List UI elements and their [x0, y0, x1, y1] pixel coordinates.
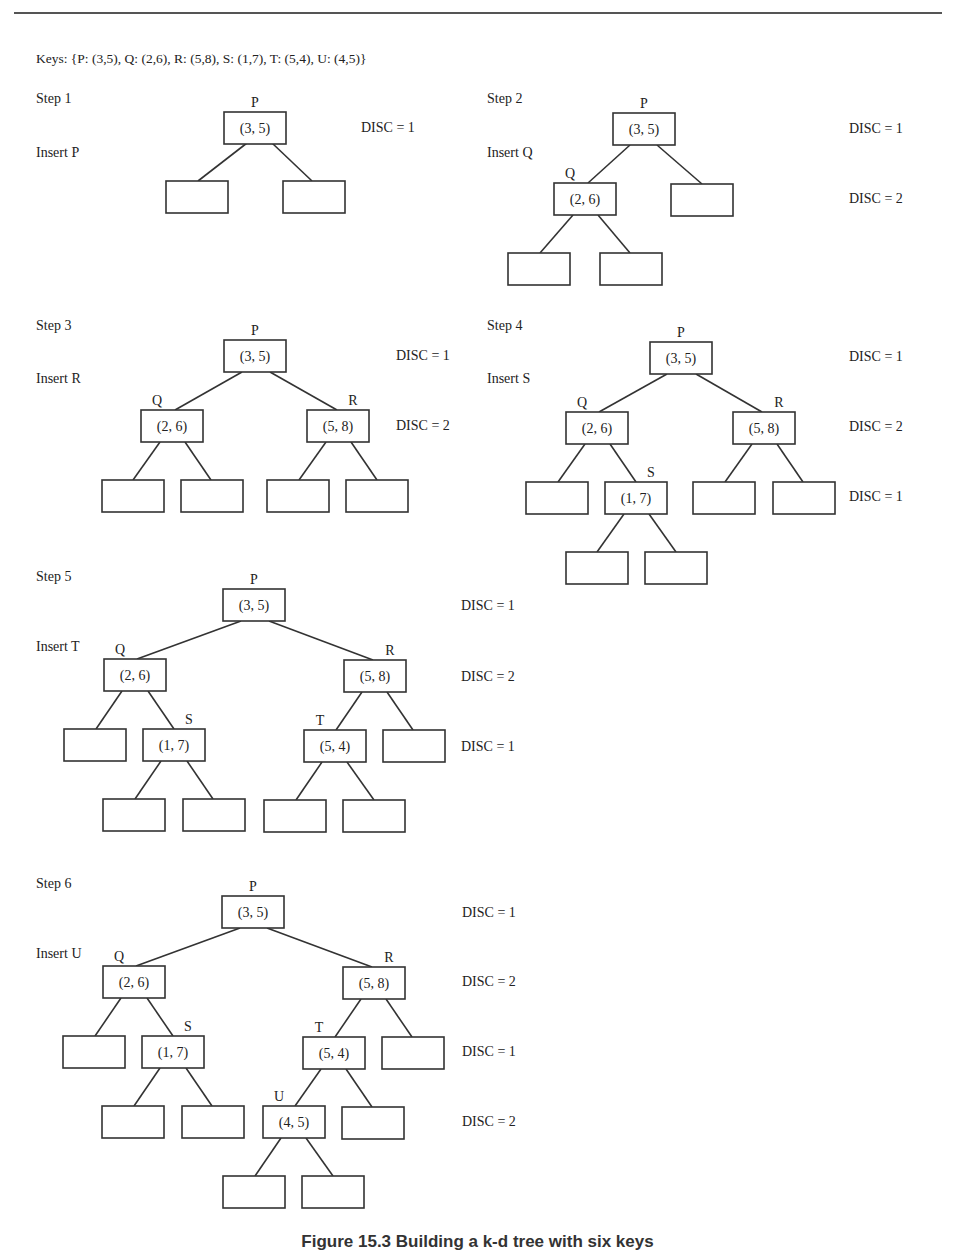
tree-edge	[270, 372, 337, 410]
empty-child-box	[64, 729, 126, 761]
empty-child-box	[645, 552, 707, 584]
tree-edge	[133, 442, 160, 480]
empty-child-box	[183, 799, 245, 831]
disc-label: DISC = 1	[849, 489, 903, 504]
disc-label: DISC = 2	[462, 974, 516, 989]
disc-label: DISC = 1	[361, 120, 415, 135]
node-value-s: (1, 7)	[621, 491, 652, 507]
node-label-p: P	[640, 96, 648, 111]
node-label-q: Q	[115, 642, 125, 657]
node-value-q: (2, 6)	[157, 419, 188, 435]
step-action: Insert U	[36, 946, 82, 961]
node-label-r: R	[348, 393, 358, 408]
tree-edge	[269, 621, 373, 660]
disc-label: DISC = 2	[462, 1114, 516, 1129]
node-label-u: U	[274, 1089, 284, 1104]
step-5: Step 5Insert T(3, 5)P(2, 6)Q(5, 8)R(1, 7…	[36, 569, 515, 832]
step-action: Insert R	[36, 371, 81, 386]
empty-child-box	[103, 799, 165, 831]
step-6: Step 6Insert U(3, 5)P(2, 6)Q(5, 8)R(1, 7…	[36, 876, 516, 1208]
tree-edge	[696, 374, 762, 412]
disc-label: DISC = 1	[849, 349, 903, 364]
disc-label: DISC = 2	[396, 418, 450, 433]
tree-edge	[175, 372, 242, 410]
empty-child-box	[102, 1106, 164, 1138]
node-label-p: P	[677, 325, 685, 340]
node-label-r: R	[774, 395, 784, 410]
disc-label: DISC = 1	[461, 739, 515, 754]
node-label-r: R	[384, 950, 394, 965]
figure-caption: Figure 15.3 Building a k-d tree with six…	[0, 1232, 955, 1252]
disc-label: DISC = 1	[462, 905, 516, 920]
tree-edge	[255, 1138, 281, 1176]
empty-child-box	[342, 1107, 404, 1139]
step-action: Insert S	[487, 371, 530, 386]
empty-child-box	[773, 482, 835, 514]
disc-label: DISC = 1	[461, 598, 515, 613]
node-label-s: S	[647, 465, 655, 480]
empty-child-box	[102, 480, 164, 512]
node-value-s: (1, 7)	[159, 738, 190, 754]
tree-edge	[186, 1068, 212, 1106]
disc-label: DISC = 1	[462, 1044, 516, 1059]
tree-edge	[306, 1138, 333, 1176]
tree-edge	[148, 691, 174, 729]
tree-edge	[599, 374, 667, 412]
step-title: Step 3	[36, 318, 71, 333]
tree-edge	[597, 514, 624, 552]
tree-edge	[588, 145, 630, 183]
node-value-s: (1, 7)	[158, 1045, 189, 1061]
step-title: Step 6	[36, 876, 71, 891]
step-action: Insert Q	[487, 145, 533, 160]
node-value-r: (5, 8)	[359, 976, 390, 992]
node-label-s: S	[184, 1019, 192, 1034]
empty-child-box	[267, 480, 329, 512]
node-value-p: (3, 5)	[239, 598, 270, 614]
empty-child-box	[166, 181, 228, 213]
empty-child-box	[382, 1037, 444, 1069]
node-label-p: P	[249, 879, 257, 894]
empty-child-box	[566, 552, 628, 584]
tree-edge	[725, 444, 752, 482]
tree-edge	[610, 444, 636, 482]
disc-label: DISC = 1	[849, 121, 903, 136]
node-label-t: T	[315, 1020, 324, 1035]
tree-edge	[187, 761, 213, 799]
node-value-r: (5, 8)	[323, 419, 354, 435]
disc-label: DISC = 2	[461, 669, 515, 684]
node-value-t: (5, 4)	[319, 1046, 350, 1062]
node-label-t: T	[316, 713, 325, 728]
node-value-q: (2, 6)	[582, 421, 613, 437]
tree-edge	[296, 762, 322, 800]
node-value-p: (3, 5)	[666, 351, 697, 367]
tree-edge	[136, 928, 240, 966]
node-value-q: (2, 6)	[570, 192, 601, 208]
empty-child-box	[181, 480, 243, 512]
node-label-p: P	[251, 323, 259, 338]
disc-label: DISC = 2	[849, 191, 903, 206]
step-title: Step 2	[487, 91, 522, 106]
tree-edge	[267, 928, 372, 967]
tree-edge	[335, 999, 361, 1037]
empty-child-box	[343, 800, 405, 832]
tree-edge	[96, 691, 122, 729]
tree-edge	[540, 215, 573, 253]
empty-child-box	[508, 253, 570, 285]
step-title: Step 1	[36, 91, 71, 106]
tree-edge	[95, 998, 121, 1036]
tree-edge	[346, 1069, 372, 1107]
tree-edge	[135, 761, 161, 799]
step-3: Step 3Insert R(3, 5)P(2, 6)Q(5, 8)RDISC …	[36, 318, 450, 512]
step-title: Step 4	[487, 318, 522, 333]
tree-edge	[134, 1068, 160, 1106]
step-action: Insert P	[36, 145, 79, 160]
tree-edge	[386, 999, 412, 1037]
tree-edge	[147, 998, 173, 1036]
tree-edge	[295, 1069, 321, 1106]
node-label-p: P	[250, 572, 258, 587]
empty-child-box	[302, 1176, 364, 1208]
node-value-r: (5, 8)	[749, 421, 780, 437]
step-title: Step 5	[36, 569, 71, 584]
tree-edge	[137, 621, 241, 659]
